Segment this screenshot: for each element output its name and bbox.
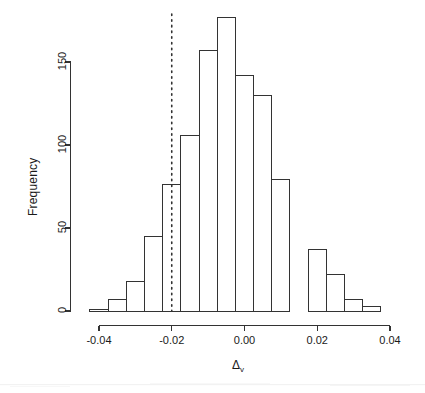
histogram-bar bbox=[108, 299, 126, 311]
x-axis-line bbox=[99, 326, 390, 332]
histogram-bar bbox=[363, 306, 381, 311]
y-tick-label: 150 bbox=[56, 46, 68, 76]
y-axis-title: Frequency bbox=[26, 158, 40, 217]
histogram-bar bbox=[272, 180, 290, 311]
x-tick-label: 0.00 bbox=[215, 334, 275, 346]
x-axis-title: Δv bbox=[232, 358, 244, 374]
x-axis-title-subscript: v bbox=[240, 365, 244, 374]
histogram-bar bbox=[326, 274, 344, 311]
x-tick-label: -0.04 bbox=[69, 334, 129, 346]
y-tick-label: 50 bbox=[56, 212, 68, 242]
x-tick-label: -0.02 bbox=[142, 334, 202, 346]
histogram-bar bbox=[308, 250, 326, 311]
histogram-bar bbox=[181, 135, 199, 311]
histogram-bar bbox=[345, 299, 363, 311]
histogram-bar bbox=[199, 50, 217, 311]
x-tick-label: 0.04 bbox=[360, 334, 420, 346]
histogram-bar bbox=[90, 309, 108, 311]
x-tick-label: 0.02 bbox=[287, 334, 347, 346]
x-axis-title-delta: Δ bbox=[232, 358, 240, 372]
y-tick-label: 100 bbox=[56, 129, 68, 159]
histogram-bars bbox=[90, 17, 381, 311]
y-tick-label: 0 bbox=[56, 295, 68, 325]
histogram-bar bbox=[126, 281, 144, 311]
histogram-bar bbox=[144, 236, 162, 311]
y-axis-line bbox=[65, 62, 71, 311]
histogram-bar bbox=[217, 17, 235, 311]
histogram-bar bbox=[254, 95, 272, 311]
histogram-bar bbox=[235, 75, 253, 311]
histogram-figure: Frequency Δv 050100150 -0.04-0.020.000.0… bbox=[0, 0, 425, 393]
